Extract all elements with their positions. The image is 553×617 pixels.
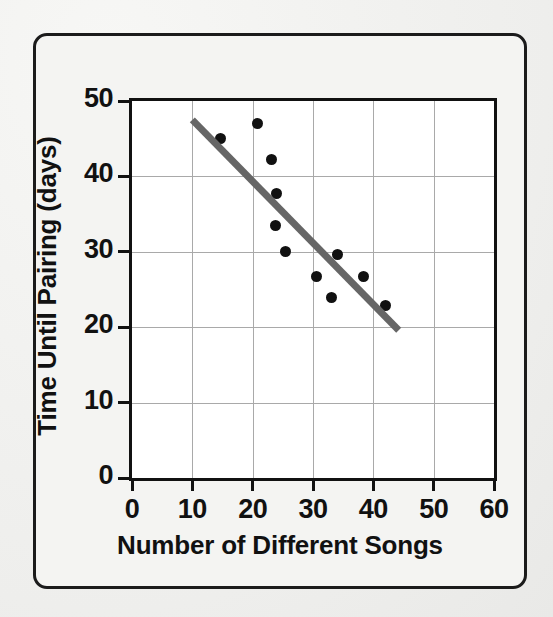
y-axis-tick: [118, 250, 131, 253]
y-axis-tick-label: 0: [36, 460, 113, 491]
trend-line: [132, 101, 494, 478]
figure-root: Time Until Pairing (days) Number of Diff…: [0, 0, 553, 617]
x-axis-tick-label: 10: [178, 494, 207, 525]
x-axis-tick: [493, 478, 496, 491]
y-axis-tick-label: 50: [36, 83, 113, 114]
y-axis-tick: [118, 477, 131, 480]
y-axis-tick-label: 10: [36, 385, 113, 416]
x-axis-tick: [131, 478, 134, 491]
x-axis-tick-label: 60: [479, 494, 508, 525]
x-axis-tick-label: 40: [359, 494, 388, 525]
x-axis-title: Number of Different Songs: [36, 530, 524, 561]
y-axis-tick: [118, 401, 131, 404]
x-axis-tick-label: 50: [419, 494, 448, 525]
x-axis-tick-label: 30: [298, 494, 327, 525]
plot-area: [129, 98, 497, 481]
y-axis-tick: [118, 326, 131, 329]
x-axis-tick: [191, 478, 194, 491]
y-axis-tick-label: 20: [36, 309, 113, 340]
x-axis-tick: [432, 478, 435, 491]
y-axis-tick: [118, 100, 131, 103]
figure-card: Time Until Pairing (days) Number of Diff…: [33, 33, 527, 589]
x-axis-tick: [251, 478, 254, 491]
x-axis-tick: [312, 478, 315, 491]
x-axis-tick-label: 0: [125, 494, 140, 525]
x-axis-tick-label: 20: [238, 494, 267, 525]
y-axis-tick-label: 30: [36, 234, 113, 265]
y-axis-tick-label: 40: [36, 158, 113, 189]
x-axis-tick: [372, 478, 375, 491]
y-axis-tick: [118, 175, 131, 178]
